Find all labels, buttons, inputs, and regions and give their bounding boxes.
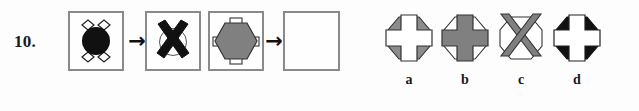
stimulus-panel-2 bbox=[145, 11, 201, 71]
panel-2-figure bbox=[147, 13, 199, 69]
answer-option-a-label: a bbox=[383, 72, 435, 88]
answer-option-c-label: c bbox=[495, 72, 547, 88]
white-base-gray-x-icon bbox=[495, 12, 547, 64]
black-base-white-plus-icon bbox=[551, 12, 603, 64]
arrow-right-icon-2: → bbox=[263, 31, 285, 51]
black-circle-with-diamonds-icon bbox=[70, 13, 122, 69]
gray-base-white-plus-icon bbox=[383, 12, 435, 64]
panel-4-figure-empty bbox=[285, 13, 338, 69]
answer-option-a[interactable] bbox=[383, 12, 435, 64]
circle-with-black-x-icon bbox=[147, 13, 199, 69]
stimulus-panel-4-answer-slot[interactable] bbox=[283, 11, 340, 71]
white-base-gray-plus-icon bbox=[439, 12, 491, 64]
answer-option-d-label: d bbox=[551, 72, 603, 88]
question-page: 10. → bbox=[0, 0, 639, 111]
answer-option-d[interactable] bbox=[551, 12, 603, 64]
panel-1-figure bbox=[70, 13, 122, 69]
stimulus-panel-3 bbox=[208, 11, 264, 71]
stimulus-panel-1 bbox=[68, 11, 124, 71]
panel-3-figure bbox=[210, 13, 262, 69]
answer-option-b-label: b bbox=[439, 72, 491, 88]
gray-hexagon-with-rectangles-icon bbox=[210, 13, 262, 69]
answer-option-c[interactable] bbox=[495, 12, 547, 64]
question-number: 10. bbox=[14, 32, 36, 52]
answer-option-b[interactable] bbox=[439, 12, 491, 64]
